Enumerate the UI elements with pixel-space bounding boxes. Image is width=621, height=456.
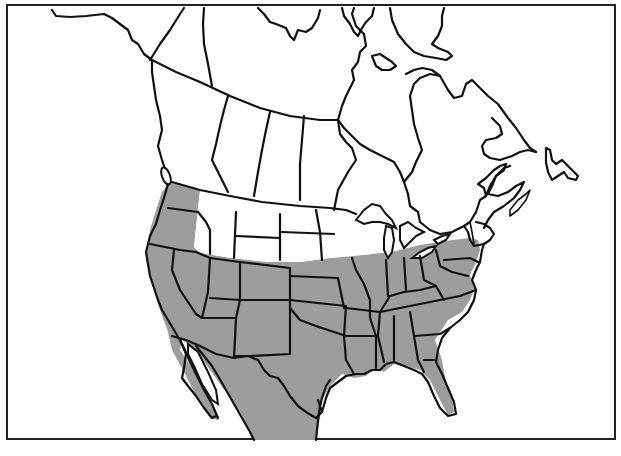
- range-map: Range map of North America: [0, 0, 621, 456]
- north-america-map-svg: [0, 0, 621, 456]
